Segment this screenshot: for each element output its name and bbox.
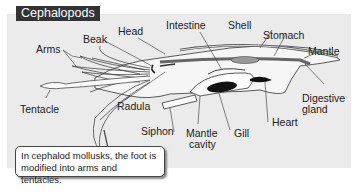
label-gill: Gill: [234, 128, 249, 139]
callout-box: In cephalod mollusks, the foot is modifi…: [15, 146, 165, 177]
label-beak: Beak: [83, 34, 107, 45]
label-siphon: Siphon: [141, 126, 174, 137]
label-radula: Radula: [117, 101, 150, 112]
label-shell: Shell: [228, 20, 251, 31]
label-tentacle: Tentacle: [20, 104, 59, 115]
label-stomach: Stomach: [263, 30, 304, 41]
label-heart: Heart: [272, 117, 298, 128]
label-head: Head: [118, 26, 143, 37]
label-mantle-cavity-2: cavity: [189, 139, 216, 150]
label-mantle: Mantle: [308, 46, 340, 57]
label-arms: Arms: [36, 44, 61, 55]
diagram-title: Cephalopods: [16, 6, 100, 21]
label-digestive-gland-2: gland: [302, 104, 328, 115]
label-intestine: Intestine: [166, 20, 206, 31]
